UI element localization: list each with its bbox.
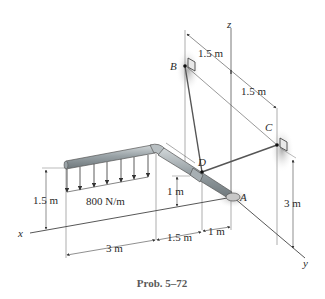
load-base-line bbox=[67, 177, 148, 192]
axis-label-z: z bbox=[226, 18, 232, 30]
dim-label-d-height: 1 m bbox=[167, 185, 184, 197]
axis-label-y: y bbox=[302, 257, 308, 269]
x-axis bbox=[30, 197, 233, 233]
point-label-a: A bbox=[239, 191, 247, 203]
diagram-canvas: z x y B C D A 1.5 m 1.5 m 1.5 m 800 N/m … bbox=[0, 0, 325, 299]
dim-label-c-height: 3 m bbox=[284, 197, 301, 209]
pipe-segment-horizontal bbox=[66, 145, 155, 169]
dim-label-x-1m: 1 m bbox=[208, 225, 225, 237]
axis-label-x: x bbox=[17, 227, 23, 239]
point-label-d: D bbox=[197, 156, 206, 168]
bc-line bbox=[187, 67, 277, 145]
wall-shadow-c bbox=[270, 128, 294, 172]
dim-label-x-3m: 3 m bbox=[106, 242, 123, 254]
caption: Prob. 5–72 bbox=[137, 277, 188, 289]
point-b bbox=[183, 64, 187, 68]
point-label-c: C bbox=[265, 121, 273, 133]
dim-label-x-1-5m: 1.5 m bbox=[167, 231, 193, 243]
cable-cd bbox=[202, 145, 277, 172]
figure: z x y B C D A 1.5 m 1.5 m 1.5 m 800 N/m … bbox=[0, 0, 325, 299]
point-c bbox=[275, 143, 279, 147]
dim-label-b-to-z: 1.5 m bbox=[198, 47, 224, 59]
support-a bbox=[226, 193, 240, 201]
point-d bbox=[200, 170, 204, 174]
dim-label-z-to-c: 1.5 m bbox=[241, 85, 267, 97]
load-label: 800 N/m bbox=[86, 195, 125, 207]
dim-label-load-height: 1.5 m bbox=[33, 194, 59, 206]
point-label-b: B bbox=[170, 60, 177, 72]
